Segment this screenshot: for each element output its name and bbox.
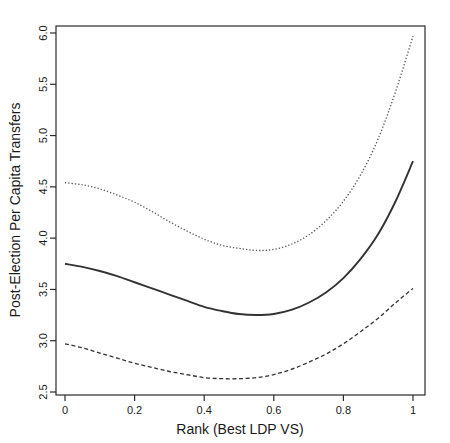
y-tick-label: 4.5 [37, 179, 49, 194]
chart-figure: 2.53.03.54.04.55.05.56.0 00.20.40.60.81 … [0, 0, 450, 443]
y-tick-label: 3.5 [37, 282, 49, 297]
y-tick-label: 5.0 [37, 128, 49, 143]
x-tick-label: 0.4 [197, 404, 212, 416]
y-tick-label: 4.0 [37, 230, 49, 245]
loess-plot: 2.53.03.54.04.55.05.56.0 00.20.40.60.81 … [0, 0, 450, 443]
y-axis-ticks: 2.53.03.54.04.55.05.56.0 [37, 25, 56, 399]
y-tick-label: 6.0 [37, 25, 49, 40]
x-axis-title: Rank (Best LDP VS) [176, 421, 303, 437]
x-tick-label: 1 [410, 404, 416, 416]
y-axis-title: Post-Election Per Capita Transfers [7, 103, 23, 318]
y-tick-label: 2.5 [37, 384, 49, 399]
plot-frame [56, 26, 425, 395]
data-curves [65, 36, 413, 379]
x-tick-label: 0 [62, 404, 68, 416]
curve-lower-confidence-band [65, 288, 413, 378]
x-tick-label: 0.2 [127, 404, 142, 416]
y-tick-label: 3.0 [37, 333, 49, 348]
x-tick-label: 0.6 [266, 404, 281, 416]
x-tick-label: 0.8 [336, 404, 351, 416]
curve-fitted-line [65, 161, 413, 315]
y-tick-label: 5.5 [37, 77, 49, 92]
x-axis-ticks: 00.20.40.60.81 [62, 395, 416, 416]
curve-upper-confidence-band [65, 36, 413, 250]
